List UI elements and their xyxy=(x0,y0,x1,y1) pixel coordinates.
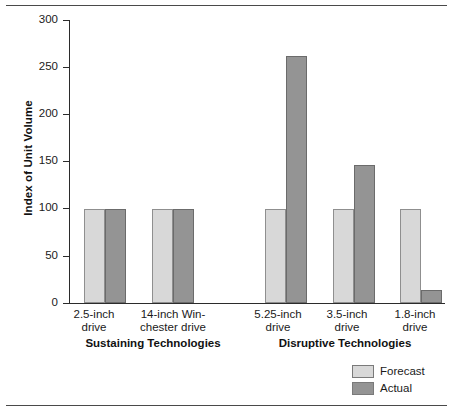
bottom-divider-rule xyxy=(6,405,447,406)
y-tick-mark-100 xyxy=(63,208,69,209)
y-tick-mark-50 xyxy=(63,256,69,257)
y-tick-label-200: 200 xyxy=(24,108,58,119)
y-tick-250: 250 xyxy=(0,67,69,68)
y-tick-label-50: 50 xyxy=(24,250,58,261)
bar-actual-5-25-inch-drive xyxy=(286,56,307,303)
y-tick-100: 100 xyxy=(0,208,69,209)
bar-forecast-14-inch-win-chester-drive xyxy=(152,209,173,303)
category-label-14-inch-winchester: 14-inch Win- chester drive xyxy=(126,308,220,333)
y-tick-mark-200 xyxy=(63,114,69,115)
y-tick-label-100: 100 xyxy=(24,202,58,213)
y-tick-0: 0 xyxy=(0,303,69,304)
legend-label-forecast: Forecast xyxy=(380,365,425,378)
group-label-sustaining: Sustaining Technologies xyxy=(58,337,248,349)
y-tick-label-0: 0 xyxy=(24,297,58,308)
category-label-2-5-inch: 2.5-inch drive xyxy=(62,308,126,333)
legend-label-actual: Actual xyxy=(380,382,412,395)
bar-chart-figure: Index of Unit Volume 300 250 200 150 100… xyxy=(0,0,453,413)
bar-forecast-3-5-inch-drive xyxy=(333,209,354,303)
category-label-1-8-inch: 1.8-inch drive xyxy=(379,308,451,333)
y-tick-mark-300 xyxy=(63,20,69,21)
y-tick-200: 200 xyxy=(0,114,69,115)
bar-actual-14-inch-win-chester-drive xyxy=(173,209,194,303)
bar-forecast-1-8-inch-drive xyxy=(400,209,421,303)
category-label-line1: 1.8-inch xyxy=(379,308,451,321)
y-axis-line xyxy=(69,20,70,304)
y-tick-mark-150 xyxy=(63,161,69,162)
group-label-disruptive: Disruptive Technologies xyxy=(245,337,445,349)
category-label-line1: 3.5-inch xyxy=(311,308,383,321)
bar-forecast-5-25-inch-drive xyxy=(265,209,286,303)
category-label-line1: 2.5-inch xyxy=(62,308,126,321)
bar-actual-2-5-inch-drive xyxy=(105,209,126,303)
bar-actual-3-5-inch-drive xyxy=(354,165,375,303)
y-tick-150: 150 xyxy=(0,161,69,162)
category-label-line2: drive xyxy=(62,321,126,334)
y-tick-label-150: 150 xyxy=(24,155,58,166)
bar-actual-1-8-inch-drive xyxy=(421,290,442,303)
y-tick-50: 50 xyxy=(0,256,69,257)
category-label-line2: drive xyxy=(311,321,383,334)
y-tick-mark-0 xyxy=(63,303,69,304)
top-divider-rule xyxy=(6,5,447,6)
legend-swatch-actual-icon xyxy=(352,382,374,395)
chart-legend: Forecast Actual xyxy=(352,363,448,397)
category-label-3-5-inch: 3.5-inch drive xyxy=(311,308,383,333)
bar-forecast-2-5-inch-drive xyxy=(84,209,105,303)
category-label-line1: 5.25-inch xyxy=(240,308,316,321)
legend-item-forecast: Forecast xyxy=(352,363,448,380)
x-axis-line xyxy=(69,303,445,304)
category-label-line1: 14-inch Win- xyxy=(126,308,220,321)
y-tick-label-250: 250 xyxy=(24,61,58,72)
y-tick-mark-250 xyxy=(63,67,69,68)
category-label-line2: drive xyxy=(240,321,316,334)
legend-swatch-forecast-icon xyxy=(352,365,374,378)
y-tick-300: 300 xyxy=(0,20,69,21)
category-label-line2: chester drive xyxy=(126,321,220,334)
category-label-5-25-inch: 5.25-inch drive xyxy=(240,308,316,333)
category-label-line2: drive xyxy=(379,321,451,334)
legend-item-actual: Actual xyxy=(352,380,448,397)
y-tick-label-300: 300 xyxy=(24,14,58,25)
